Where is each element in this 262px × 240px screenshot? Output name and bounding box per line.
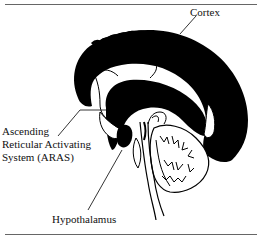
aras-label-line1: Ascending bbox=[2, 125, 49, 138]
hypothalamus-leader-line bbox=[88, 150, 122, 210]
hypothalamus-label: Hypothalamus bbox=[52, 213, 116, 226]
aras-label-line2: Reticular Activating bbox=[2, 138, 91, 151]
cortex-label: Cortex bbox=[190, 6, 220, 19]
brain-illustration bbox=[0, 0, 262, 240]
aras-label-line3: System (ARAS) bbox=[2, 151, 74, 164]
